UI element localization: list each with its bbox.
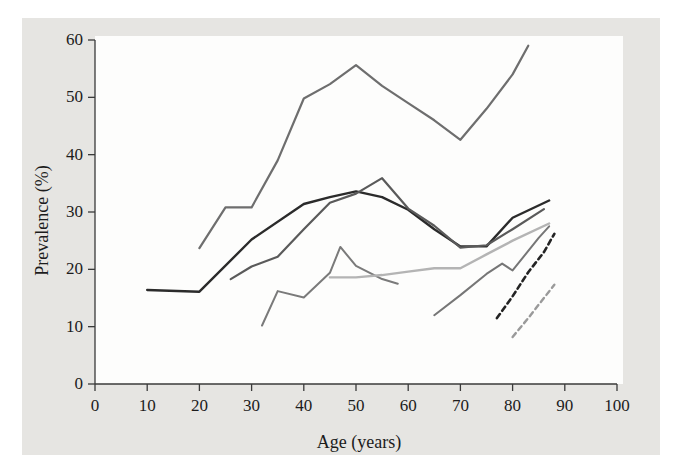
x-axis-title: Age (years): [95, 432, 623, 453]
x-tick-label: 100: [604, 396, 630, 416]
x-tick-label: 50: [348, 396, 365, 416]
y-axis-title: Prevalence (%): [32, 131, 53, 311]
series-line: [199, 46, 528, 248]
x-tick-label: 80: [504, 396, 521, 416]
x-tick-label: 10: [139, 396, 156, 416]
x-tick-label: 60: [400, 396, 417, 416]
series-line: [497, 234, 554, 318]
axis-ticks: [88, 40, 617, 391]
y-tick-label: 50: [45, 87, 83, 107]
y-tick-label: 0: [45, 374, 83, 394]
line-chart: [0, 0, 682, 475]
series-line: [262, 247, 398, 326]
x-tick-label: 90: [556, 396, 573, 416]
x-tick-label: 40: [295, 396, 312, 416]
data-series-group: [147, 46, 554, 337]
y-tick-label: 10: [45, 317, 83, 337]
series-line: [231, 178, 544, 279]
y-tick-label: 60: [45, 30, 83, 50]
x-tick-label: 70: [452, 396, 469, 416]
series-line: [513, 285, 555, 337]
x-tick-label: 30: [243, 396, 260, 416]
x-tick-label: 0: [91, 396, 100, 416]
x-tick-label: 20: [191, 396, 208, 416]
figure-page: 0102030405060 0102030405060708090100 Pre…: [0, 0, 682, 475]
